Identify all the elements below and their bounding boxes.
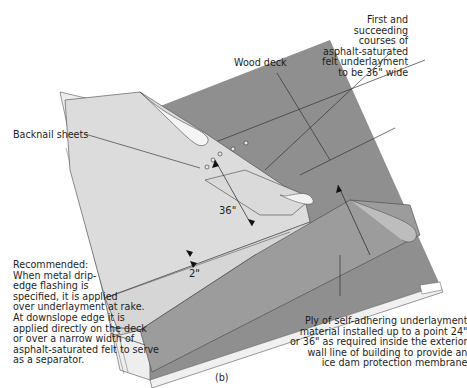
label-first-courses: First and succeeding courses of asphalt-… <box>322 15 408 79</box>
label-wood-deck: Wood deck <box>234 58 287 69</box>
figure-caption: (b) <box>215 373 229 384</box>
label-ply: Ply of self-adhering underlayment materi… <box>290 316 467 369</box>
dimension-2: 2" <box>189 268 200 279</box>
dimension-36: 36" <box>219 205 236 216</box>
label-recommended: Recommended: When metal drip- edge flash… <box>13 260 159 366</box>
label-backnail: Backnail sheets <box>13 130 88 141</box>
